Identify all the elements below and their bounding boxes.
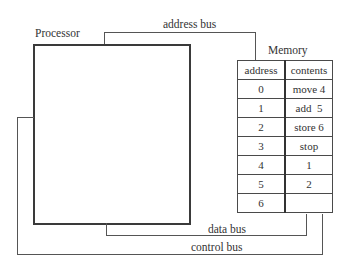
address-cell: 2 [238, 118, 286, 137]
address-cell: 6 [238, 194, 286, 213]
address-cell: 3 [238, 137, 286, 156]
contents-cell: add 5 [285, 99, 333, 118]
contents-cell: store 6 [285, 118, 333, 137]
memory-table: address contents 0 move 4 1 add 5 2 stor… [237, 60, 333, 213]
contents-cell: stop [285, 137, 333, 156]
memory-table-header: address contents [238, 61, 333, 80]
memory-label: Memory [268, 44, 308, 56]
header-address: address [238, 61, 286, 80]
memory-row: 0 move 4 [238, 80, 333, 99]
memory-row: 4 1 [238, 156, 333, 175]
address-bus-label: address bus [163, 18, 216, 30]
contents-cell: 2 [285, 175, 333, 194]
memory-row: 5 2 [238, 175, 333, 194]
memory-row: 6 [238, 194, 333, 213]
memory-row: 1 add 5 [238, 99, 333, 118]
data-bus-label: data bus [208, 223, 246, 235]
memory-row: 3 stop [238, 137, 333, 156]
address-cell: 4 [238, 156, 286, 175]
memory-row: 2 store 6 [238, 118, 333, 137]
address-cell: 0 [238, 80, 286, 99]
contents-cell: 1 [285, 156, 333, 175]
contents-cell [285, 194, 333, 213]
control-bus-label: control bus [191, 241, 242, 253]
processor-box [33, 44, 191, 225]
header-contents: contents [285, 61, 333, 80]
processor-label: Processor [35, 27, 80, 39]
contents-cell: move 4 [285, 80, 333, 99]
address-cell: 5 [238, 175, 286, 194]
address-cell: 1 [238, 99, 286, 118]
